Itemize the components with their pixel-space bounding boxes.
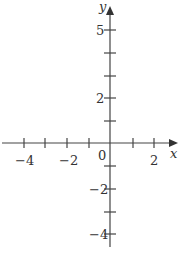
- y-tick-label-2: 2: [96, 91, 104, 106]
- x-tick-label-2: 2: [150, 153, 158, 168]
- y-axis-label: y: [98, 0, 107, 14]
- x-tick-label-neg4: −4: [15, 153, 34, 168]
- y-axis-arrow-icon: [106, 6, 114, 15]
- y-tick-label-neg4: −4: [89, 227, 108, 242]
- origin-label: 0: [98, 148, 106, 163]
- coordinate-plane: −4 −2 2 0 x 5 2 −2 −4 y: [0, 0, 184, 255]
- y-tick-label-5: 5: [96, 23, 104, 38]
- x-tick-label-neg2: −2: [59, 153, 78, 168]
- x-axis-label: x: [170, 146, 178, 161]
- y-tick-label-neg2: −2: [89, 182, 108, 197]
